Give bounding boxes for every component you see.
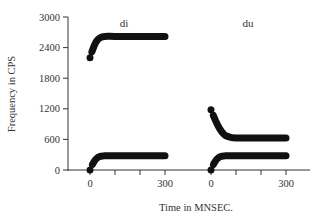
panel-label-di: di [120,17,129,29]
x-tick-label: 300 [157,178,173,189]
x-axis: 03000300 [68,170,310,189]
formant-band-di-F1 [90,156,165,170]
formant-band-di-F2 [90,36,165,57]
formant-line-du-F2 [211,110,286,138]
y-tick-label: 3000 [39,12,60,23]
formant-band-du-F1 [211,156,286,170]
y-tick-label: 0 [55,165,60,176]
y-tick-label: 2400 [39,42,60,53]
x-tick-label: 0 [208,178,213,189]
y-axis: 06001200180024003000 [39,12,68,176]
x-axis-title: Time in MNSEC. [159,202,233,213]
formant-series [90,36,286,170]
y-tick-label: 1200 [39,103,60,114]
x-tick-label: 300 [278,178,294,189]
y-axis-title: Frequency in CPS [6,56,17,133]
formant-chart: 06001200180024003000 03000300 Frequency … [0,0,324,217]
y-tick-label: 1800 [39,73,60,84]
y-tick-label: 600 [44,134,60,145]
x-tick-label: 0 [87,178,92,189]
panel-label-du: du [243,17,255,29]
